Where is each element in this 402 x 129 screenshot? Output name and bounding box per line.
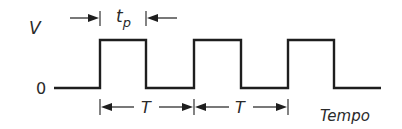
period-annotation-1: T [100, 98, 194, 117]
zero-level-label: 0 [36, 79, 46, 98]
period-label: T [235, 98, 246, 117]
period-annotation-2: T [195, 98, 288, 117]
pulse-width-annotation: tp [70, 6, 177, 30]
period-label: T [141, 98, 152, 117]
arrow-right-icon [182, 103, 193, 111]
pulse-width-subscript: p [122, 15, 131, 30]
square-waveform [54, 40, 381, 88]
pulse-diagram: V 0 Tempo tp T T [0, 0, 402, 129]
pulse-width-label: tp [116, 6, 131, 30]
arrow-right-icon [276, 103, 287, 111]
arrow-left-icon [147, 14, 158, 22]
voltage-axis-label: V [29, 18, 42, 38]
arrow-right-icon [88, 14, 99, 22]
time-axis-label: Tempo [320, 107, 370, 125]
